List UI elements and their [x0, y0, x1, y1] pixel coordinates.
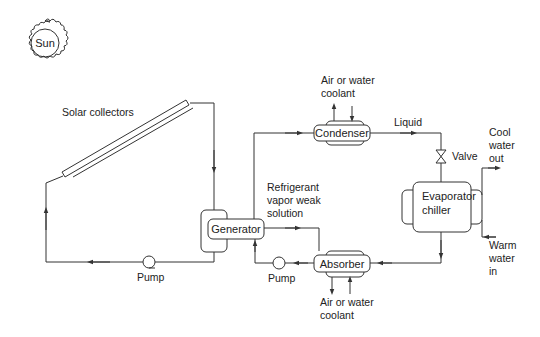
- cool-water-label-2: water: [488, 139, 515, 151]
- valve-label: Valve: [452, 150, 478, 162]
- valve-icon: [436, 150, 446, 163]
- warm-water-label-2: water: [488, 252, 515, 264]
- solar-collectors-label: Solar collectors: [62, 106, 134, 118]
- cool-water-out-line: [482, 168, 496, 195]
- warm-water-in-line: [482, 220, 496, 237]
- condenser-label: Condenser: [315, 127, 369, 139]
- warm-water-label-1: Warm: [489, 239, 517, 251]
- cool-water-label-3: out: [489, 152, 504, 164]
- refrigerant-label-3: solution: [267, 207, 303, 219]
- absorber-coolant-label-1: Air or water: [320, 296, 374, 308]
- refrigerant-label-1: Refrigerant: [267, 181, 319, 193]
- condenser-coolant-label-2: coolant: [321, 87, 355, 99]
- pump-right: [273, 257, 285, 269]
- absorber-coolant-label-2: coolant: [320, 309, 354, 321]
- sun-label: Sun: [35, 37, 55, 49]
- liquid-line: [370, 133, 441, 150]
- absorber-label: Absorber: [320, 258, 365, 270]
- sun-icon: Sun: [29, 19, 68, 58]
- pump-to-generator-line: [255, 239, 273, 263]
- pump-right-label: Pump: [268, 272, 296, 284]
- evaporator-label-1: Evaporator: [422, 190, 476, 202]
- warm-water-label-3: in: [489, 265, 497, 277]
- vapor-to-absorber-line: [370, 232, 441, 263]
- refrigerant-label-2: vapor weak: [267, 194, 321, 206]
- hot-supply-line: [190, 103, 214, 210]
- weak-solution-line: [264, 228, 319, 251]
- condenser-coolant-label-1: Air or water: [321, 74, 375, 86]
- pump-left: [143, 256, 155, 268]
- cool-water-label-1: Cool: [489, 126, 511, 138]
- generator-return-line: [155, 252, 214, 262]
- evaporator-label-2: chiller: [422, 204, 451, 216]
- generator-label: Generator: [211, 223, 261, 235]
- liquid-label: Liquid: [394, 116, 422, 128]
- pump-left-label: Pump: [137, 271, 165, 283]
- absorption-cooling-diagram: Sun Solar collectors Pump Generator Cond…: [0, 0, 540, 337]
